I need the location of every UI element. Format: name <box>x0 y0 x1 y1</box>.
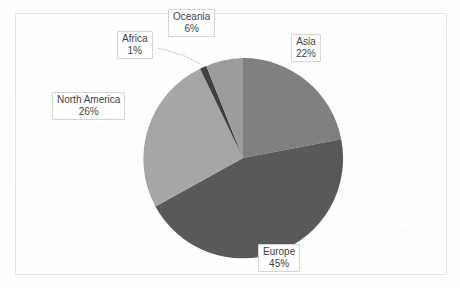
pie-label-europe: Europe 45% <box>258 244 300 272</box>
pie-label-oceania-name: Oceania <box>173 11 210 23</box>
pie-label-north-america-value: 26% <box>57 106 120 118</box>
pie-label-africa-value: 1% <box>122 45 148 57</box>
pie-label-asia-name: Asia <box>296 36 316 48</box>
pie-label-oceania: Oceania 6% <box>168 9 215 37</box>
pie-label-europe-value: 45% <box>263 258 295 270</box>
pie-label-asia-value: 22% <box>296 48 316 60</box>
pie-chart-figure: Asia 22% Europe 45% North America 26% Af… <box>0 0 460 288</box>
pie-label-africa-name: Africa <box>122 33 148 45</box>
africa-leader-line <box>158 48 200 64</box>
pie-label-asia: Asia 22% <box>291 34 321 62</box>
pie-label-europe-name: Europe <box>263 246 295 258</box>
pie-graphic <box>0 0 460 288</box>
pie-label-north-america: North America 26% <box>52 92 125 120</box>
pie-label-africa: Africa 1% <box>117 31 153 59</box>
pie-label-north-america-name: North America <box>57 94 120 106</box>
pie-label-oceania-value: 6% <box>173 23 210 35</box>
